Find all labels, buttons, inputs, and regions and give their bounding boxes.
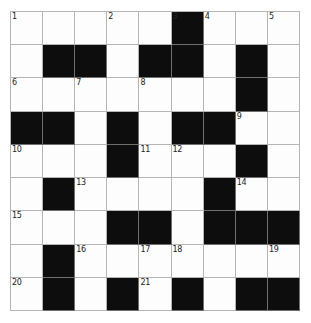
grid-open-square[interactable] [268,112,300,145]
grid-open-square[interactable] [107,245,139,278]
clue-number: 15 [12,211,22,220]
grid-block-square [172,45,204,78]
grid-open-square[interactable] [204,145,236,178]
grid-block-square [107,112,139,145]
grid-open-square[interactable]: 10 [11,145,43,178]
clue-number: 17 [140,245,150,254]
grid-block-square [236,211,268,244]
grid-block-square [11,112,43,145]
clue-number: 7 [76,78,81,87]
grid-block-square [236,145,268,178]
grid-block-square [172,112,204,145]
grid-block-square [236,78,268,111]
grid-open-square[interactable]: 12 [172,145,204,178]
grid-open-square[interactable] [268,78,300,111]
grid-block-square [43,45,75,78]
grid-open-square[interactable] [204,245,236,278]
grid-open-square[interactable] [204,278,236,311]
grid-open-square[interactable] [43,211,75,244]
crossword-puzzle: 123456789101112131415161718192021 [0,0,311,323]
grid-open-square[interactable] [268,45,300,78]
grid-open-square[interactable] [43,145,75,178]
clue-number: 1 [12,12,17,21]
grid-open-square[interactable] [268,178,300,211]
grid-open-square[interactable]: 18 [172,245,204,278]
grid-open-square[interactable]: 20 [11,278,43,311]
grid-open-square[interactable] [139,12,171,45]
grid-open-square[interactable] [11,45,43,78]
grid-open-square[interactable] [236,12,268,45]
grid-block-square: 3 [172,12,204,45]
grid-block-square [204,178,236,211]
clue-number: 18 [173,245,183,254]
grid-open-square[interactable]: 5 [268,12,300,45]
grid-open-square[interactable] [43,12,75,45]
grid-open-square[interactable]: 9 [236,112,268,145]
grid-block-square [268,278,300,311]
grid-open-square[interactable]: 13 [75,178,107,211]
grid-open-square[interactable]: 2 [107,12,139,45]
clue-number: 2 [108,12,113,21]
grid-open-square[interactable]: 21 [139,278,171,311]
grid-open-square[interactable] [107,45,139,78]
grid-open-square[interactable]: 15 [11,211,43,244]
grid-open-square[interactable] [11,245,43,278]
grid-open-square[interactable] [139,112,171,145]
grid-block-square [204,112,236,145]
clue-number: 13 [76,178,86,187]
grid-open-square[interactable] [107,178,139,211]
grid-open-square[interactable] [75,145,107,178]
grid-open-square[interactable] [236,245,268,278]
grid-block-square [43,278,75,311]
grid-open-square[interactable]: 8 [139,78,171,111]
clue-number: 19 [269,245,279,254]
clue-number: 10 [12,145,22,154]
grid-block-square [107,145,139,178]
clue-number: 12 [173,145,183,154]
grid-open-square[interactable]: 7 [75,78,107,111]
grid-block-square [107,278,139,311]
grid-open-square[interactable] [11,178,43,211]
clue-number: 20 [12,278,22,287]
grid-open-square[interactable]: 1 [11,12,43,45]
crossword-grid[interactable]: 123456789101112131415161718192021 [10,11,300,311]
clue-number: 9 [237,112,242,121]
grid-block-square [43,112,75,145]
grid-open-square[interactable] [75,112,107,145]
clue-number: 14 [237,178,247,187]
grid-open-square[interactable] [172,78,204,111]
clue-number: 5 [269,12,274,21]
grid-open-square[interactable] [268,145,300,178]
clue-number: 6 [12,78,17,87]
grid-block-square [172,278,204,311]
grid-open-square[interactable]: 19 [268,245,300,278]
grid-block-square [43,245,75,278]
grid-open-square[interactable]: 4 [204,12,236,45]
grid-block-square [139,211,171,244]
grid-open-square[interactable]: 17 [139,245,171,278]
grid-open-square[interactable]: 6 [11,78,43,111]
grid-open-square[interactable] [172,211,204,244]
grid-block-square [107,211,139,244]
grid-block-square [236,45,268,78]
grid-block-square [236,278,268,311]
clue-number: 21 [140,278,150,287]
grid-open-square[interactable] [139,178,171,211]
grid-open-square[interactable]: 11 [139,145,171,178]
grid-open-square[interactable] [204,78,236,111]
grid-open-square[interactable] [107,78,139,111]
grid-open-square[interactable] [75,278,107,311]
clue-number: 4 [205,12,210,21]
grid-open-square[interactable] [204,45,236,78]
clue-number: 16 [76,245,86,254]
grid-block-square [204,211,236,244]
grid-open-square[interactable] [75,211,107,244]
grid-open-square[interactable]: 16 [75,245,107,278]
grid-open-square[interactable] [43,78,75,111]
grid-open-square[interactable] [172,178,204,211]
grid-open-square[interactable] [75,12,107,45]
grid-block-square [75,45,107,78]
grid-block-square [139,45,171,78]
grid-open-square[interactable]: 14 [236,178,268,211]
clue-number: 8 [140,78,145,87]
